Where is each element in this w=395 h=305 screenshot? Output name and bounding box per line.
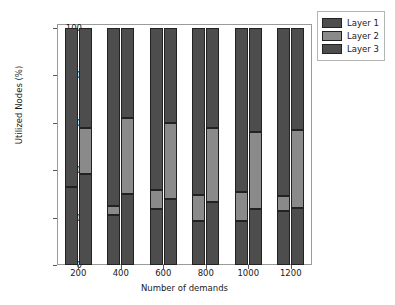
bar-segment-layer-3: [65, 28, 78, 187]
x-tick-mark: [78, 265, 79, 269]
bar-segment-layer-2: [206, 128, 219, 203]
legend-item-layer-1[interactable]: Layer 1: [322, 17, 379, 29]
x-tick-label: 400: [113, 268, 129, 278]
legend-label: Layer 1: [347, 18, 379, 28]
legend-label: Layer 2: [347, 31, 379, 41]
bar-segment-layer-2: [291, 130, 304, 208]
bar-segment-layer-3: [206, 28, 219, 128]
legend-swatch-icon: [322, 44, 342, 54]
x-axis-label: Number of demands: [57, 283, 312, 293]
bar-segment-layer-3: [291, 28, 304, 130]
y-tick-mark: [53, 265, 57, 266]
bar-segment-layer-2: [150, 190, 163, 209]
bar-600-b: [164, 28, 177, 265]
bar-segment-layer-1: [235, 221, 248, 265]
bar-200-a: [65, 28, 78, 265]
legend-swatch-icon: [322, 31, 342, 41]
bar-segment-layer-1: [192, 221, 205, 265]
bar-segment-layer-2: [249, 132, 262, 209]
bar-segment-layer-1: [164, 199, 177, 265]
x-tick-mark: [163, 265, 164, 269]
bar-segment-layer-2: [192, 195, 205, 221]
x-tick-label: 800: [198, 268, 214, 278]
bar-segment-layer-2: [235, 192, 248, 222]
bar-segment-layer-3: [277, 28, 290, 196]
bar-segment-layer-3: [249, 28, 262, 132]
bar-segment-layer-1: [277, 211, 290, 266]
x-tick-label: 200: [70, 268, 86, 278]
bar-segment-layer-2: [164, 123, 177, 199]
x-tick-mark: [206, 265, 207, 269]
bar-600-a: [150, 28, 163, 265]
bar-800-a: [192, 28, 205, 265]
bar-200-b: [79, 28, 92, 265]
legend-item-layer-3[interactable]: Layer 3: [322, 43, 379, 55]
bar-segment-layer-3: [107, 28, 120, 206]
x-tick-label: 600: [155, 268, 171, 278]
bar-segment-layer-1: [206, 202, 219, 265]
bar-segment-layer-2: [107, 206, 120, 215]
bar-segment-layer-3: [150, 28, 163, 190]
bar-segment-layer-3: [235, 28, 248, 192]
bar-800-b: [206, 28, 219, 265]
plot-area: [57, 28, 312, 265]
bar-400-b: [121, 28, 134, 265]
y-axis-label: Utilized Nodes (%): [14, 40, 24, 170]
bar-1000-a: [235, 28, 248, 265]
legend-swatch-icon: [322, 18, 342, 28]
bar-segment-layer-1: [150, 209, 163, 265]
bar-segment-layer-1: [79, 174, 92, 265]
x-tick-mark: [121, 265, 122, 269]
bar-1000-b: [249, 28, 262, 265]
x-tick-mark: [248, 265, 249, 269]
bar-segment-layer-3: [192, 28, 205, 195]
bar-segment-layer-2: [277, 196, 290, 210]
figure: Utilized Nodes (%) 020406080100 20040060…: [0, 0, 395, 305]
x-tick-label: 1000: [237, 268, 259, 278]
x-tick-mark: [291, 265, 292, 269]
bar-1200-a: [277, 28, 290, 265]
bar-segment-layer-2: [79, 128, 92, 174]
legend-label: Layer 3: [347, 44, 379, 54]
bar-segment-layer-3: [79, 28, 92, 128]
x-tick-label: 1200: [280, 268, 302, 278]
bar-1200-b: [291, 28, 304, 265]
bar-segment-layer-1: [121, 194, 134, 265]
bar-400-a: [107, 28, 120, 265]
bar-segment-layer-1: [249, 209, 262, 265]
bar-segment-layer-3: [164, 28, 177, 123]
bar-segment-layer-1: [65, 187, 78, 265]
bar-segment-layer-3: [121, 28, 134, 118]
legend-item-layer-2[interactable]: Layer 2: [322, 30, 379, 42]
bar-segment-layer-1: [291, 208, 304, 265]
legend: Layer 1Layer 2Layer 3: [317, 11, 385, 61]
bar-segment-layer-1: [107, 215, 120, 265]
bar-segment-layer-2: [121, 118, 134, 194]
